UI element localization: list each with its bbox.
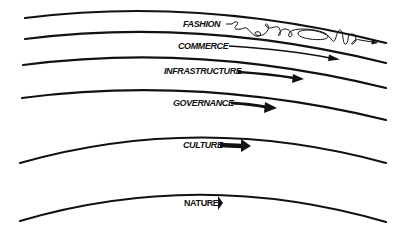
arrowhead-icon <box>241 139 251 152</box>
layer-governance: GOVERNANCE <box>173 98 277 113</box>
arrowhead-icon <box>292 74 304 83</box>
arrow-shaft <box>238 72 294 78</box>
layer-label-nature: NATURE <box>184 198 219 208</box>
layer-culture: CULTURE <box>183 139 251 152</box>
layer-label-fashion: FASHION <box>183 19 221 29</box>
pace-layers-diagram: FASHION COMMERCE INFRASTRUCTURE GOVERNAN… <box>0 0 405 235</box>
layer-commerce: COMMERCE <box>178 41 340 61</box>
layer-label-infrastructure: INFRASTRUCTURE <box>164 66 243 76</box>
layer-label-culture: CULTURE <box>183 140 224 150</box>
arrowhead-icon <box>218 196 223 210</box>
arrowhead-icon <box>328 55 340 62</box>
arrowhead-icon <box>264 102 277 113</box>
layer-label-governance: GOVERNANCE <box>173 98 235 108</box>
arrow-shaft <box>231 103 266 107</box>
layer-label-commerce: COMMERCE <box>178 41 230 51</box>
arrow-shaft <box>220 145 242 146</box>
layer-nature: NATURE <box>184 196 223 210</box>
